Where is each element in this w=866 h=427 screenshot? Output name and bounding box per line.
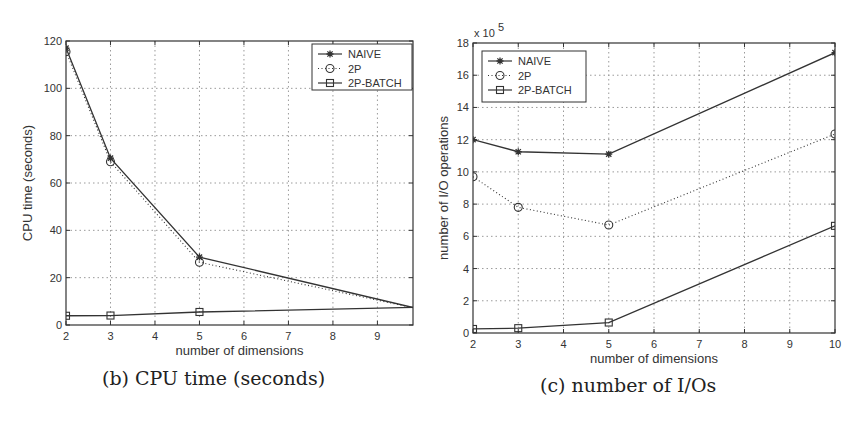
x-tick-label: 3 [515,338,521,350]
x-tick-label: 5 [196,330,202,342]
x-tick-label: 8 [741,338,747,350]
x-tick-label: 10 [829,338,841,350]
legend-label-2p-batch: 2P-BATCH [348,77,402,89]
series-line-2p-batch [66,307,422,316]
y-axis-label: number of I/O operations [436,116,451,260]
y-tick-label: 4 [463,263,469,275]
y-tick-label: 16 [457,69,469,81]
caption-io-count: (c) number of I/Os [540,374,716,396]
x-tick-label: 2 [63,330,69,342]
asterisk-marker-icon [327,51,334,58]
x-tick-label: 4 [152,330,158,342]
legend: NAIVE2P2P-BATCH [482,51,586,102]
legend-label-2p: 2P [348,63,361,75]
y-tick-label: 14 [457,101,469,113]
y-tick-label: 40 [50,224,62,236]
x-tick-label: 3 [107,330,113,342]
asterisk-marker-icon [497,58,504,65]
y-tick-label: 0 [56,319,62,331]
y-axis-multiplier-exponent: 5 [498,21,504,33]
x-axis-label: number of dimensions [590,351,718,366]
y-tick-label: 20 [50,272,62,284]
x-tick-label: 2 [470,338,476,350]
y-tick-label: 12 [457,134,469,146]
asterisk-marker-icon [515,148,522,155]
x-tick-label: 4 [560,338,566,350]
x-tick-label: 6 [241,330,247,342]
legend-label-naive: NAIVE [518,55,551,67]
y-tick-label: 120 [44,35,62,47]
asterisk-marker-icon [605,151,612,158]
y-tick-label: 100 [44,82,62,94]
y-tick-label: 18 [457,37,469,49]
legend-label-naive: NAIVE [348,48,381,60]
cpu-time-chart: 23456789020406080100120number of dimensi… [20,35,422,358]
y-tick-label: 10 [457,166,469,178]
figure-canvas: 23456789020406080100120number of dimensi… [0,0,866,427]
y-tick-label: 60 [50,177,62,189]
legend-label-2p: 2P [518,70,531,82]
asterisk-marker-icon [832,49,839,56]
x-tick-label: 7 [285,330,291,342]
x-tick-label: 6 [651,338,657,350]
x-tick-label: 5 [606,338,612,350]
io-count-chart: 2345678910024681012141618x 105number of … [436,21,841,366]
x-axis-label: number of dimensions [176,343,304,358]
legend-label-2p-batch: 2P-BATCH [518,84,572,96]
legend: NAIVE2P2P-BATCH [312,44,412,90]
y-tick-label: 2 [463,295,469,307]
x-tick-label: 9 [374,330,380,342]
y-tick-label: 6 [463,230,469,242]
x-tick-label: 8 [330,330,336,342]
x-tick-label: 9 [787,338,793,350]
caption-cpu-time: (b) CPU time (seconds) [102,367,325,389]
y-tick-label: 8 [463,198,469,210]
x-tick-label: 7 [696,338,702,350]
y-tick-label: 80 [50,130,62,142]
y-axis-multiplier: x 10 [474,27,495,39]
y-tick-label: 0 [463,327,469,339]
y-axis-label: CPU time (seconds) [20,125,35,241]
asterisk-marker-icon [470,136,477,143]
